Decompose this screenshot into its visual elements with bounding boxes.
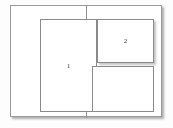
- panel-region-3[interactable]: [92, 66, 154, 112]
- panel-label-2: 2: [98, 37, 153, 45]
- panel-label-1: 1: [41, 62, 96, 70]
- diagram-canvas: 1 2: [0, 0, 173, 128]
- panel-region-2[interactable]: 2: [97, 19, 154, 63]
- panel-region-1[interactable]: 1: [40, 19, 97, 112]
- page-frame: 1 2: [10, 5, 162, 117]
